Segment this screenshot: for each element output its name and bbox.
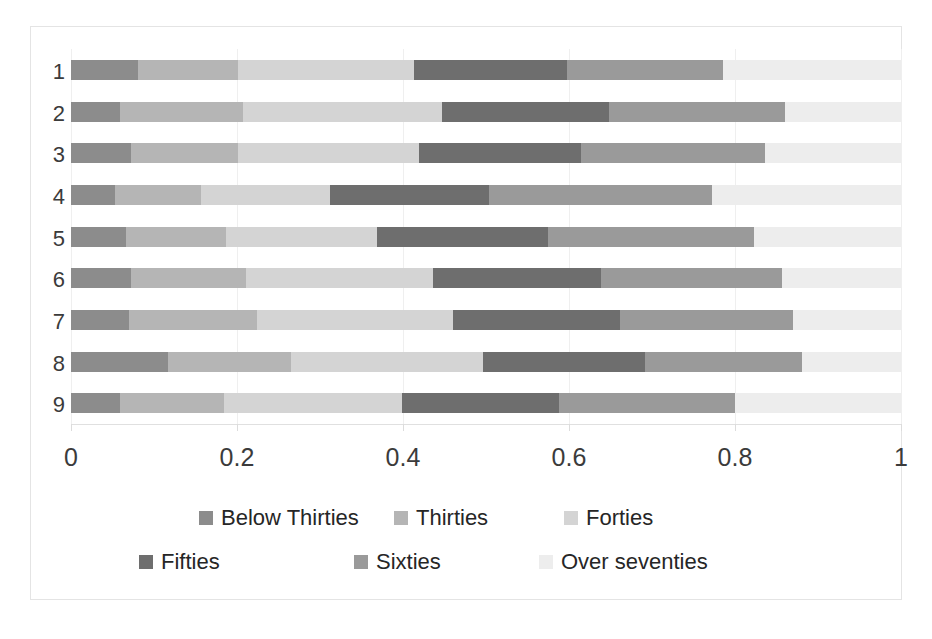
bar-segment[interactable] (559, 393, 735, 413)
bar-segment[interactable] (414, 60, 568, 80)
x-axis-tick-labels: 00.20.40.60.81 (31, 445, 903, 485)
bar-segment[interactable] (609, 102, 785, 122)
bar-segment[interactable] (620, 310, 793, 330)
legend-item[interactable]: Thirties (394, 507, 488, 529)
bar-segment[interactable] (71, 268, 131, 288)
bar-segment[interactable] (645, 352, 802, 372)
legend-item[interactable]: Over seventies (539, 551, 708, 573)
bar-segment[interactable] (238, 143, 419, 163)
y-axis-tick-label: 6 (31, 269, 65, 291)
bar-segment[interactable] (601, 268, 782, 288)
legend-swatch-icon (539, 555, 553, 569)
bar-segment[interactable] (71, 143, 131, 163)
bar-segment[interactable] (548, 227, 754, 247)
bar-segment[interactable] (126, 227, 226, 247)
bar-row[interactable] (71, 60, 901, 80)
bar-segment[interactable] (785, 102, 901, 122)
bar-segment[interactable] (224, 393, 402, 413)
bar-segment[interactable] (71, 310, 129, 330)
y-axis-tick-label: 5 (31, 228, 65, 250)
y-axis-tick-label: 7 (31, 311, 65, 333)
y-axis-tick-label: 4 (31, 186, 65, 208)
legend-swatch-icon (199, 511, 213, 525)
x-axis-tickmark (237, 424, 238, 431)
x-axis-tickmark (901, 424, 902, 431)
bar-segment[interactable] (257, 310, 453, 330)
bar-row[interactable] (71, 352, 901, 372)
bar-segment[interactable] (71, 60, 138, 80)
legend-swatch-icon (394, 511, 408, 525)
bar-segment[interactable] (581, 143, 765, 163)
bar-segment[interactable] (433, 268, 601, 288)
bar-segment[interactable] (793, 310, 901, 330)
bar-segment[interactable] (71, 227, 126, 247)
legend-label: Fifties (161, 551, 220, 573)
legend-label: Forties (586, 507, 653, 529)
x-axis-tick-label: 0.8 (718, 445, 753, 470)
bar-segment[interactable] (489, 185, 711, 205)
bar-row[interactable] (71, 143, 901, 163)
bar-segment[interactable] (71, 185, 115, 205)
y-axis-tick-label: 3 (31, 144, 65, 166)
y-axis-tick-label: 8 (31, 353, 65, 375)
bar-segment[interactable] (567, 60, 723, 80)
chart-card: 123456789 00.20.40.60.81 Below ThirtiesT… (30, 26, 902, 600)
x-axis-line (71, 424, 902, 425)
bar-segment[interactable] (442, 102, 609, 122)
legend-item[interactable]: Fifties (139, 551, 220, 573)
bar-row[interactable] (71, 185, 901, 205)
bar-segment[interactable] (138, 60, 238, 80)
bar-segment[interactable] (291, 352, 483, 372)
x-axis-tickmark (569, 424, 570, 431)
bar-segment[interactable] (226, 227, 377, 247)
bar-segment[interactable] (238, 60, 414, 80)
legend-label: Over seventies (561, 551, 708, 573)
bar-segment[interactable] (243, 102, 442, 122)
y-axis-tick-label: 1 (31, 61, 65, 83)
legend-item[interactable]: Below Thirties (199, 507, 359, 529)
legend-row: FiftiesSixtiesOver seventies (139, 551, 799, 587)
bar-segment[interactable] (168, 352, 291, 372)
bar-segment[interactable] (71, 393, 120, 413)
bar-segment[interactable] (131, 268, 246, 288)
bar-segment[interactable] (120, 393, 224, 413)
x-axis-tick-label: 0.2 (220, 445, 255, 470)
x-axis-tickmark (735, 424, 736, 431)
bar-segment[interactable] (453, 310, 621, 330)
bar-segment[interactable] (377, 227, 548, 247)
bar-segment[interactable] (723, 60, 901, 80)
bar-segment[interactable] (782, 268, 901, 288)
bar-segment[interactable] (71, 102, 120, 122)
bar-segment[interactable] (120, 102, 243, 122)
bar-segment[interactable] (802, 352, 901, 372)
legend-label: Sixties (376, 551, 441, 573)
legend-item[interactable]: Sixties (354, 551, 441, 573)
legend-item[interactable]: Forties (564, 507, 653, 529)
bar-segment[interactable] (765, 143, 901, 163)
bar-row[interactable] (71, 227, 901, 247)
bar-segment[interactable] (712, 185, 901, 205)
x-axis-tickmark (403, 424, 404, 431)
bar-segment[interactable] (754, 227, 901, 247)
bar-row[interactable] (71, 310, 901, 330)
bar-segment[interactable] (735, 393, 901, 413)
bar-segment[interactable] (201, 185, 330, 205)
x-axis-tick-label: 1 (894, 445, 908, 470)
bar-segment[interactable] (419, 143, 581, 163)
legend-row: Below ThirtiesThirtiesForties (139, 507, 799, 543)
bar-segment[interactable] (115, 185, 201, 205)
bar-row[interactable] (71, 268, 901, 288)
bar-row[interactable] (71, 102, 901, 122)
plot-area: 123456789 00.20.40.60.81 (31, 27, 903, 427)
bar-segment[interactable] (402, 393, 559, 413)
bar-segment[interactable] (129, 310, 257, 330)
bar-segment[interactable] (71, 352, 168, 372)
bar-segment[interactable] (131, 143, 238, 163)
x-axis-tickmark (71, 424, 72, 431)
bar-segment[interactable] (483, 352, 646, 372)
bar-segment[interactable] (330, 185, 489, 205)
legend-label: Thirties (416, 507, 488, 529)
x-axis-tick-label: 0.6 (552, 445, 587, 470)
bar-row[interactable] (71, 393, 901, 413)
bar-segment[interactable] (246, 268, 433, 288)
